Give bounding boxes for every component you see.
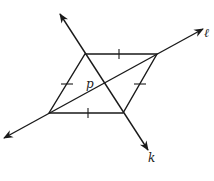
label-line-k: k bbox=[148, 151, 155, 165]
line-k bbox=[60, 14, 148, 150]
line-l bbox=[4, 29, 203, 138]
label-point-p: p bbox=[86, 77, 94, 91]
label-line-l: ℓ bbox=[204, 26, 209, 40]
diagram-canvas: ℓ k p bbox=[0, 0, 214, 181]
